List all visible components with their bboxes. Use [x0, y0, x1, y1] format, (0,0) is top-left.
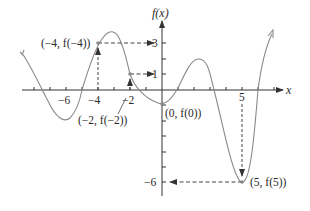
x-axis-label: x [285, 83, 292, 97]
x-tick-label-neg6: −6 [58, 94, 70, 106]
annotation-point-0: (0, f(0)) [160, 102, 201, 120]
y-axis: f(x) 3 1 −6 [144, 6, 169, 196]
y-axis-label: f(x) [152, 6, 169, 20]
point-label-neg2: (−2, f(−2)) [78, 114, 128, 127]
function-curve [24, 32, 272, 182]
point-label-5: (5, f(5)) [250, 176, 287, 189]
annotation-point-neg4: (−4, f(−4)) [41, 37, 154, 90]
curve-left-arrow-icon [20, 50, 24, 56]
x-tick-label-neg4: −4 [88, 94, 100, 106]
point-label-neg4: (−4, f(−4)) [41, 37, 91, 50]
y-tick-label-neg6: −6 [144, 176, 156, 188]
point-label-0: (0, f(0)) [165, 107, 202, 120]
x-tick-label-5: 5 [239, 91, 245, 103]
x-tick-label-neg2: −2 [122, 94, 134, 106]
function-graph: −6 −4 −2 5 x f(x) 3 1 −6 (−4, f(−4) [0, 0, 310, 211]
